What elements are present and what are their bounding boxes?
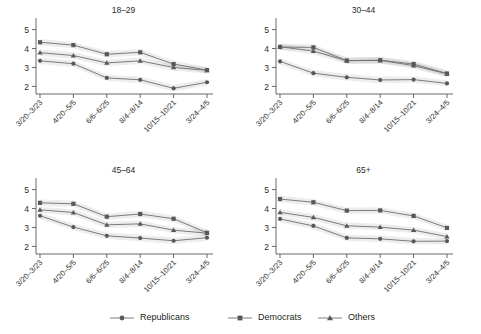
data-point-republicans [71, 62, 75, 66]
x-tick-label: 8/4–8/14 [357, 258, 384, 285]
y-tick-label: 2 [24, 82, 29, 92]
data-point-democrats [345, 209, 349, 213]
data-point-republicans [138, 78, 142, 82]
x-tick-label: 3/24–4/5 [184, 258, 211, 285]
chart-panel: 18–2923453/20–3/234/20–5/56/6–6/258/4–8/… [14, 5, 213, 134]
x-tick-label: 6/6–6/25 [84, 258, 111, 285]
data-point-republicans [38, 59, 42, 63]
data-point-republicans [71, 225, 75, 229]
data-point-republicans [138, 236, 142, 240]
data-point-republicans [205, 80, 209, 84]
panel-title: 30–44 [352, 5, 376, 15]
x-tick-label: 3/20–3/23 [14, 98, 44, 128]
data-point-republicans [378, 78, 382, 82]
y-tick-label: 5 [264, 25, 269, 35]
data-point-republicans [172, 239, 176, 243]
x-tick-label: 6/6–6/25 [84, 98, 111, 125]
data-point-republicans [445, 239, 449, 243]
x-tick-label: 3/24–4/5 [424, 258, 451, 285]
x-tick-label: 8/4–8/14 [357, 98, 384, 125]
chart-panel: 30–4423453/20–3/234/20–5/56/6–6/258/4–8/… [254, 5, 453, 134]
legend-marker-circle [120, 316, 125, 321]
data-point-republicans [278, 217, 282, 221]
x-tick-label: 3/20–3/23 [14, 258, 44, 288]
x-tick-label: 8/4–8/14 [117, 98, 144, 125]
x-tick-label: 4/20–5/5 [51, 258, 78, 285]
y-tick-label: 4 [24, 44, 29, 54]
data-point-republicans [105, 234, 109, 238]
data-point-republicans [345, 75, 349, 79]
data-point-democrats [445, 226, 449, 230]
data-point-democrats [278, 197, 282, 201]
x-tick-label: 3/20–3/23 [254, 258, 284, 288]
y-tick-label: 2 [264, 242, 269, 252]
data-point-democrats [71, 202, 75, 206]
panel-title: 65+ [356, 165, 370, 175]
x-tick-label: 4/20–5/5 [51, 98, 78, 125]
x-tick-label: 10/15–10/21 [382, 98, 418, 134]
y-tick-label: 3 [264, 63, 269, 73]
data-point-republicans [378, 237, 382, 241]
x-tick-label: 8/4–8/14 [117, 258, 144, 285]
x-tick-label: 3/24–4/5 [184, 98, 211, 125]
x-tick-label: 3/24–4/5 [424, 98, 451, 125]
x-tick-label: 10/15–10/21 [142, 98, 178, 134]
data-point-republicans [311, 224, 315, 228]
data-point-democrats [172, 217, 176, 221]
data-point-republicans [311, 71, 315, 75]
data-point-republicans [445, 81, 449, 85]
data-point-democrats [378, 208, 382, 212]
data-point-democrats [138, 50, 142, 54]
chart-legend: RepublicansDemocratsOthers [110, 312, 376, 322]
data-point-republicans [105, 76, 109, 80]
y-tick-label: 4 [264, 44, 269, 54]
legend-marker-square [238, 316, 243, 321]
x-tick-label: 10/15–10/21 [382, 258, 418, 294]
y-tick-label: 5 [24, 25, 29, 35]
legend-label: Others [348, 312, 376, 322]
data-point-republicans [38, 214, 42, 218]
chart-panel: 65+23453/20–3/234/20–5/56/6–6/258/4–8/14… [254, 165, 453, 294]
x-tick-label: 4/20–5/5 [291, 98, 318, 125]
legend-label: Republicans [140, 312, 190, 322]
legend-item-others: Others [318, 312, 376, 322]
x-tick-label: 3/20–3/23 [254, 98, 284, 128]
data-point-democrats [412, 214, 416, 218]
data-point-democrats [71, 43, 75, 47]
y-tick-label: 3 [264, 223, 269, 233]
chart-panel: 45–6423453/20–3/234/20–5/56/6–6/258/4–8/… [14, 165, 213, 294]
data-point-republicans [412, 239, 416, 243]
data-point-republicans [205, 236, 209, 240]
small-multiples-line-chart: 18–2923453/20–3/234/20–5/56/6–6/258/4–8/… [0, 0, 481, 334]
data-point-democrats [38, 201, 42, 205]
data-point-democrats [38, 40, 42, 44]
data-point-democrats [138, 212, 142, 216]
x-tick-label: 6/6–6/25 [324, 98, 351, 125]
panel-title: 18–29 [112, 5, 136, 15]
data-point-republicans [345, 236, 349, 240]
data-point-republicans [172, 86, 176, 90]
y-tick-label: 2 [264, 82, 269, 92]
data-point-democrats [105, 215, 109, 219]
panels-layer: 18–2923453/20–3/234/20–5/56/6–6/258/4–8/… [14, 5, 453, 294]
y-tick-label: 5 [24, 185, 29, 195]
data-point-republicans [412, 78, 416, 82]
x-tick-label: 4/20–5/5 [291, 258, 318, 285]
y-tick-label: 5 [264, 185, 269, 195]
legend-label: Democrats [258, 312, 302, 322]
y-tick-label: 3 [24, 63, 29, 73]
data-point-democrats [311, 200, 315, 204]
y-tick-label: 2 [24, 242, 29, 252]
y-tick-label: 4 [264, 204, 269, 214]
data-point-republicans [278, 59, 282, 63]
legend-item-republicans: Republicans [110, 312, 190, 322]
legend-item-democrats: Democrats [228, 312, 302, 322]
data-point-democrats [105, 52, 109, 56]
y-tick-label: 3 [24, 223, 29, 233]
y-tick-label: 4 [24, 204, 29, 214]
panel-title: 45–64 [112, 165, 136, 175]
x-tick-label: 10/15–10/21 [142, 258, 178, 294]
x-tick-label: 6/6–6/25 [324, 258, 351, 285]
